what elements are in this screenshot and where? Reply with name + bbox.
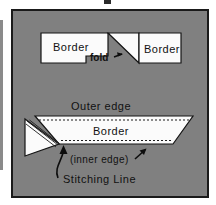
outer-edge-label: Outer edge [71, 100, 131, 112]
stitching-line-arrowhead-icon [60, 145, 68, 154]
diagram-frame: Border Border fold Outer edge [11, 9, 209, 198]
fold-arrowhead-icon [117, 52, 123, 56]
right-border-label: Border [144, 43, 180, 55]
inner-edge-label: (inner edge) [70, 154, 129, 165]
scan-artifact-top [104, 0, 111, 4]
fold-label: fold [90, 52, 108, 63]
fold-triangle [108, 33, 139, 63]
left-border-label: Border [53, 41, 89, 53]
bottom-border-label: Border [93, 125, 129, 137]
figure-root: Border Border fold Outer edge [0, 0, 216, 205]
scan-artifact-left [0, 20, 3, 170]
border-diagram: Border Border fold Outer edge [13, 11, 207, 196]
stitching-line-label: Stitching Line [63, 173, 136, 185]
